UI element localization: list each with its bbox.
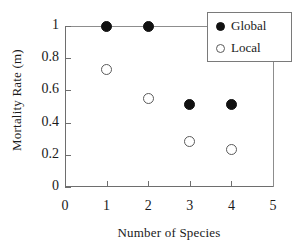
data-point-local	[143, 93, 154, 104]
x-axis-tick-label: 0	[45, 198, 85, 214]
y-axis-tick	[65, 155, 71, 156]
data-point-global	[101, 21, 112, 32]
x-axis-tick	[107, 181, 108, 187]
open-circle-icon	[216, 44, 225, 53]
y-axis-tick	[65, 123, 71, 124]
y-axis-tick-label: 1	[15, 17, 59, 33]
y-axis-tick	[65, 187, 71, 188]
y-axis-tick-label: 0.6	[15, 81, 59, 97]
x-axis-tick-label: 1	[87, 198, 127, 214]
x-axis-tick-label: 5	[253, 198, 293, 214]
x-axis-tick-label: 2	[128, 198, 168, 214]
y-axis-tick-label: 0.2	[15, 146, 59, 162]
y-axis-tick-label: 0.8	[15, 49, 59, 65]
x-axis-tick	[148, 181, 149, 187]
legend-label-global: Global	[231, 18, 266, 34]
y-axis-tick-label: 0.4	[15, 114, 59, 130]
x-axis-title: Number of Species	[65, 225, 273, 241]
data-point-global	[143, 21, 154, 32]
x-axis-tick-label: 3	[170, 198, 210, 214]
data-point-local	[101, 64, 112, 75]
y-axis-tick	[65, 90, 71, 91]
y-axis-tick-label: 0	[15, 178, 59, 194]
y-axis-tick	[65, 58, 71, 59]
x-axis-tick	[231, 181, 232, 187]
legend-entry-local: Local	[216, 40, 261, 56]
legend-label-local: Local	[231, 40, 261, 56]
x-axis-tick-label: 4	[211, 198, 251, 214]
filled-circle-icon	[216, 22, 225, 31]
y-axis-title: Mortality Rate (m)	[9, 10, 25, 190]
chart-legend: Global Local	[207, 12, 292, 62]
mortality-rate-scatter-chart: Mortality Rate (m) 00.20.40.60.81 012345…	[0, 0, 302, 252]
x-axis-tick	[190, 181, 191, 187]
legend-entry-global: Global	[216, 18, 266, 34]
y-axis-tick	[65, 26, 71, 27]
